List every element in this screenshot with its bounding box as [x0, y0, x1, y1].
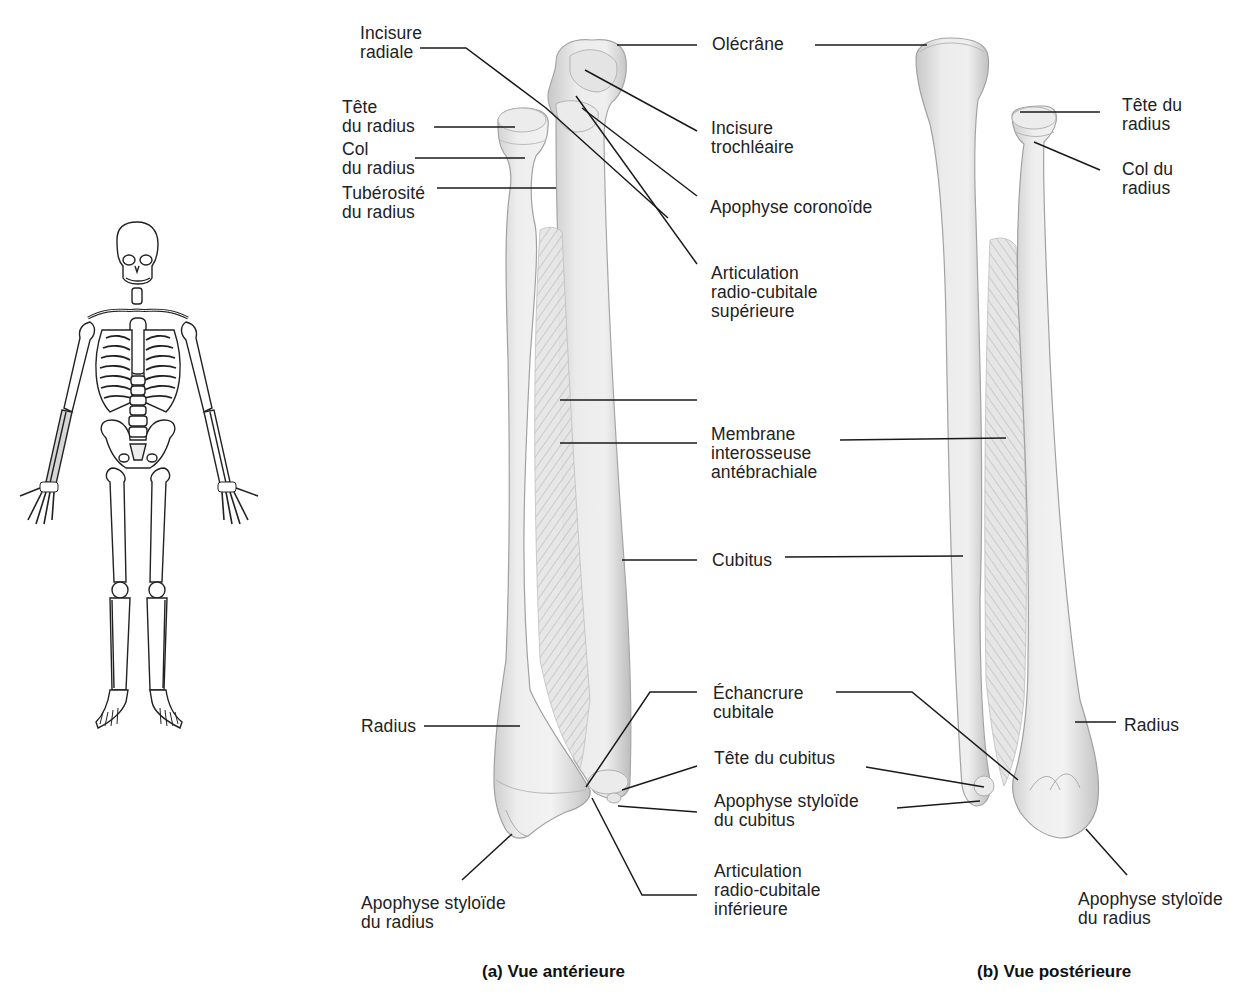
- label-tete-du-radius-anterior: Tête du radius: [342, 98, 415, 136]
- label-apophyse-styloide-radius-posterior: Apophyse styloïde du radius: [1078, 890, 1223, 928]
- forearm-bones-diagram: Incisure radiale Tête du radius Col du r…: [0, 0, 1259, 1002]
- label-tete-du-radius-posterior: Tête du radius: [1122, 96, 1182, 134]
- label-radius-anterior: Radius: [361, 717, 416, 736]
- caption-posterior-view: (b) Vue postérieure: [977, 962, 1131, 982]
- label-apophyse-styloide-cubitus: Apophyse styloïde du cubitus: [714, 792, 859, 830]
- label-articulation-radio-cubitale-inferieure: Articulation radio-cubitale inférieure: [714, 862, 820, 919]
- label-col-du-radius-anterior: Col du radius: [342, 140, 415, 178]
- label-echancrure-cubitale: Échancrure cubitale: [713, 684, 804, 722]
- label-tete-du-cubitus: Tête du cubitus: [714, 749, 835, 768]
- label-olecrane: Olécrâne: [712, 35, 784, 54]
- label-apophyse-styloide-radius-anterior: Apophyse styloïde du radius: [361, 894, 506, 932]
- label-cubitus: Cubitus: [712, 551, 772, 570]
- label-articulation-radio-cubitale-superieure: Articulation radio-cubitale supérieure: [711, 264, 817, 321]
- label-col-du-radius-posterior: Col du radius: [1122, 160, 1173, 198]
- label-membrane-interosseuse: Membrane interosseuse antébrachiale: [711, 425, 817, 482]
- caption-anterior-view: (a) Vue antérieure: [482, 962, 625, 982]
- label-apophyse-coronoide: Apophyse coronoïde: [710, 198, 872, 217]
- leader-lines-precise: [0, 0, 1259, 1002]
- label-incisure-radiale: Incisure radiale: [360, 24, 422, 62]
- label-tuberosite-du-radius: Tubérosité du radius: [342, 184, 425, 222]
- label-incisure-trochleaire: Incisure trochléaire: [711, 119, 794, 157]
- label-radius-posterior: Radius: [1124, 716, 1179, 735]
